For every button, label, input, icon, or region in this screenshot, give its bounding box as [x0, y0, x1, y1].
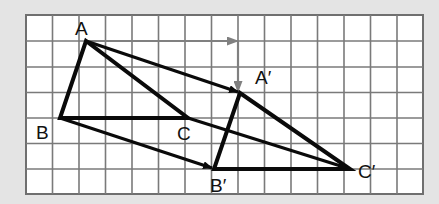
label-c-prime: C′	[358, 161, 376, 182]
label-a-prime: A′	[255, 67, 272, 88]
label-a: A	[75, 18, 88, 39]
translation-diagram: A B C A′ B′ C′	[0, 0, 439, 204]
label-b: B	[36, 122, 49, 143]
label-b-prime: B′	[210, 175, 227, 196]
label-c: C	[177, 123, 191, 144]
